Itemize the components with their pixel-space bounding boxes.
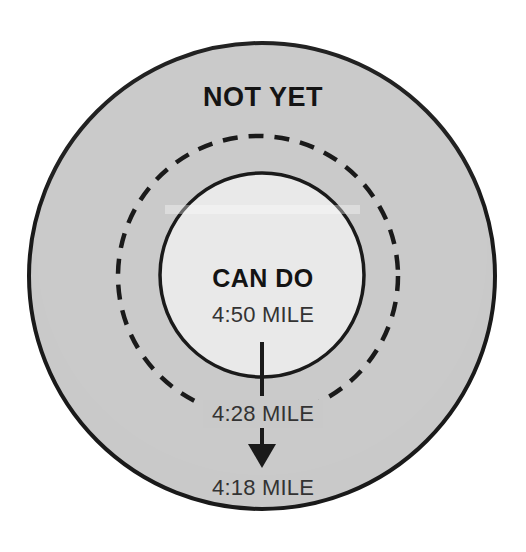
outer-zone-value: 4:18 MILE [0, 477, 526, 499]
inner-circle-sheen [165, 205, 360, 214]
dashed-ring-value-wrapper: 4:28 MILE [0, 400, 526, 428]
inner-zone-heading: CAN DO [0, 266, 526, 291]
dashed-ring-value: 4:28 MILE [203, 400, 323, 428]
inner-zone-value: 4:50 MILE [0, 304, 526, 326]
zone-diagram: NOT YET CAN DO 4:50 MILE 4:28 MILE 4:18 … [0, 0, 526, 552]
outer-zone-heading: NOT YET [0, 84, 526, 111]
